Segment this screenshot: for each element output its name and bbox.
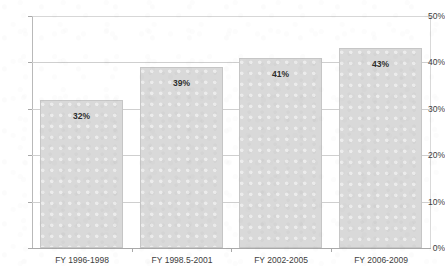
bar: [140, 67, 223, 248]
y-tick-mark: [28, 248, 32, 249]
chart-title-clipped: [0, 0, 445, 7]
bar-value-label: 32%: [40, 112, 123, 121]
y-tick-mark: [28, 202, 32, 203]
x-tick-mark: [132, 248, 133, 252]
y-tick-mark: [28, 109, 32, 110]
x-tick-mark: [331, 248, 332, 252]
bar-value-label: 43%: [339, 60, 422, 69]
bar: [239, 58, 322, 248]
x-tick-label: FY 1996-1998: [32, 256, 132, 265]
bar: [339, 48, 422, 248]
x-tick-mark: [231, 248, 232, 252]
x-tick-label: FY 2006-2009: [331, 256, 431, 265]
y-tick-mark: [28, 16, 32, 17]
y-tick-mark: [28, 155, 32, 156]
x-tick-label: FY 1998.5-2001: [132, 256, 232, 265]
y-tick-mark: [28, 62, 32, 63]
bar-value-label: 41%: [239, 70, 322, 79]
bar-value-label: 39%: [140, 79, 223, 88]
plot-right-edge: [430, 16, 431, 249]
bar: [40, 100, 123, 248]
x-tick-label: FY 2002-2005: [231, 256, 331, 265]
y-tick-label: 50%: [417, 12, 445, 21]
bar-chart: 0%10%20%30%40%50% 32%39%41%43% FY 1996-1…: [0, 0, 445, 272]
